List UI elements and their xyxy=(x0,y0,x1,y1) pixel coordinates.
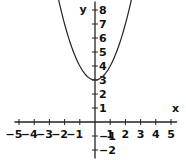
x-tick-label: 4 xyxy=(152,128,160,141)
y-axis-label: y xyxy=(79,3,86,16)
y-tick-label: 5 xyxy=(99,46,107,59)
y-tick-label: 2 xyxy=(99,88,107,101)
y-tick-label: 6 xyxy=(99,32,107,45)
x-tick-label: 2 xyxy=(122,128,130,141)
parabola-graph: −5−4−3−2−112345−2−112345678xy xyxy=(0,0,186,160)
y-tick-label: −1 xyxy=(99,130,116,143)
x-tick-label: 5 xyxy=(167,128,175,141)
x-tick-label: 3 xyxy=(137,128,145,141)
y-tick-label: 7 xyxy=(99,18,107,31)
y-tick-label: 8 xyxy=(99,4,107,17)
x-tick-label: −1 xyxy=(66,128,83,141)
x-axis-label: x xyxy=(172,102,179,115)
y-tick-label: 4 xyxy=(99,60,107,73)
y-tick-label: −2 xyxy=(99,144,116,157)
y-tick-label: 1 xyxy=(99,102,107,115)
